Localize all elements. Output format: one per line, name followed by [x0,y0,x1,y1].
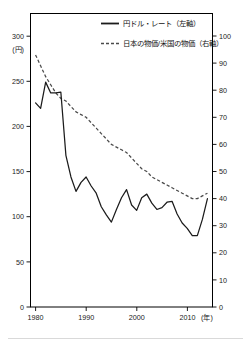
chart-svg: 0 50 100 150 200 250 300 (円) [0,0,251,344]
left-tick-label-0: 0 [20,303,24,312]
left-tick-label-150: 150 [12,167,24,176]
right-tick-label-10: 10 [219,276,227,285]
legend-label-price-ratio: 日本の物価/米国の物価（右軸） [123,39,223,48]
right-tick-label-50: 50 [219,167,227,176]
right-tick-label-80: 80 [219,86,227,95]
x-axis-unit-label: (年) [201,313,213,322]
right-tick-label-60: 60 [219,140,227,149]
right-tick-label-0: 0 [219,303,223,312]
right-tick-label-40: 40 [219,194,227,203]
chart-background [0,0,251,344]
x-tick-label-2000: 2000 [129,313,145,322]
right-tick-label-70: 70 [219,113,227,122]
x-tick-label-1990: 1990 [78,313,94,322]
left-tick-label-50: 50 [16,258,24,267]
right-tick-label-20: 20 [219,248,227,257]
right-tick-label-90: 90 [219,59,227,68]
right-tick-label-30: 30 [219,221,227,230]
left-tick-label-100: 100 [12,212,24,221]
left-tick-label-200: 200 [12,122,24,131]
legend-label-yen-dollar-rate: 円ドル・レート（左軸） [123,19,200,28]
left-tick-label-250: 250 [12,77,24,86]
x-tick-label-2010: 2010 [179,313,195,322]
left-axis-unit-label: (円) [12,45,24,54]
left-tick-label-300: 300 [12,32,24,41]
exchange-rate-chart: 0 50 100 150 200 250 300 (円) [0,0,251,344]
x-tick-label-1980: 1980 [28,313,44,322]
